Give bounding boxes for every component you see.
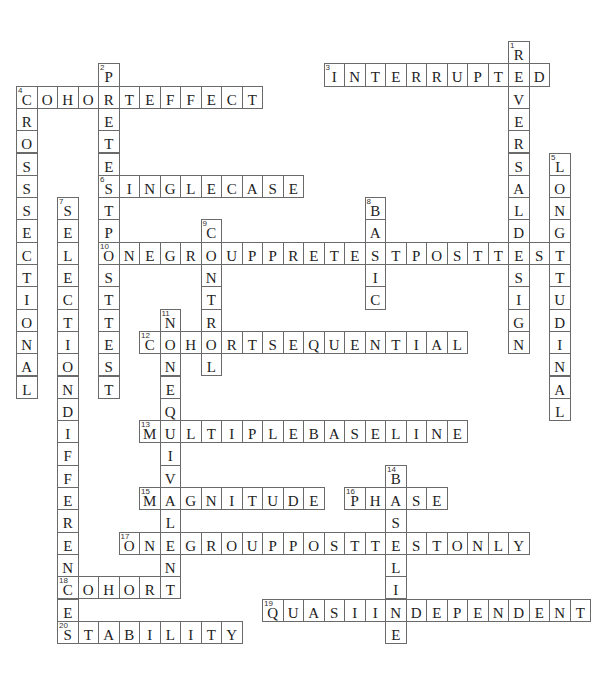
crossword-cell[interactable]: G: [160, 242, 182, 265]
crossword-cell[interactable]: R: [16, 108, 38, 131]
crossword-cell[interactable]: A: [242, 175, 264, 198]
crossword-cell[interactable]: T: [242, 331, 264, 354]
crossword-cell[interactable]: N: [160, 554, 182, 577]
crossword-cell[interactable]: T: [426, 532, 448, 555]
crossword-cell[interactable]: G: [508, 309, 530, 332]
crossword-cell[interactable]: T: [98, 309, 120, 332]
crossword-cell[interactable]: Q: [303, 331, 325, 354]
crossword-cell[interactable]: N: [57, 376, 79, 399]
crossword-cell[interactable]: N: [139, 532, 161, 555]
crossword-cell[interactable]: E: [57, 487, 79, 510]
crossword-cell[interactable]: O: [221, 532, 243, 555]
crossword-cell[interactable]: T: [78, 621, 100, 644]
crossword-cell[interactable]: R: [201, 532, 223, 555]
crossword-cell[interactable]: Y: [221, 621, 243, 644]
crossword-cell[interactable]: E: [98, 108, 120, 131]
crossword-cell[interactable]: N: [549, 353, 571, 376]
crossword-cell[interactable]: S: [508, 153, 530, 176]
crossword-cell[interactable]: C9: [201, 219, 223, 242]
crossword-cell[interactable]: S: [324, 532, 346, 555]
crossword-cell[interactable]: I: [365, 264, 387, 287]
crossword-cell[interactable]: O: [16, 130, 38, 153]
crossword-cell[interactable]: L: [201, 353, 223, 376]
crossword-cell[interactable]: C12: [139, 331, 161, 354]
crossword-cell[interactable]: T: [57, 309, 79, 332]
crossword-cell[interactable]: A: [324, 420, 346, 443]
crossword-cell[interactable]: T: [98, 197, 120, 220]
crossword-cell[interactable]: E: [57, 599, 79, 622]
crossword-cell[interactable]: O: [16, 309, 38, 332]
crossword-cell[interactable]: I: [385, 576, 407, 599]
crossword-cell[interactable]: E: [385, 621, 407, 644]
crossword-cell[interactable]: T: [119, 86, 141, 109]
crossword-cell[interactable]: I: [221, 420, 243, 443]
crossword-cell[interactable]: I: [221, 487, 243, 510]
crossword-cell[interactable]: A: [426, 331, 448, 354]
crossword-cell[interactable]: T: [549, 264, 571, 287]
crossword-cell[interactable]: S: [406, 487, 428, 510]
crossword-cell[interactable]: N: [201, 487, 223, 510]
crossword-cell[interactable]: R: [180, 242, 202, 265]
crossword-cell[interactable]: Q19: [262, 599, 284, 622]
crossword-cell[interactable]: L: [385, 554, 407, 577]
crossword-cell[interactable]: T: [98, 286, 120, 309]
crossword-cell[interactable]: E: [139, 242, 161, 265]
crossword-cell[interactable]: T: [98, 376, 120, 399]
crossword-cell[interactable]: E: [344, 242, 366, 265]
crossword-cell[interactable]: P: [262, 242, 284, 265]
crossword-cell[interactable]: E: [529, 599, 551, 622]
crossword-cell[interactable]: S: [508, 264, 530, 287]
crossword-cell[interactable]: E: [344, 331, 366, 354]
crossword-cell[interactable]: U: [549, 286, 571, 309]
crossword-cell[interactable]: T: [344, 532, 366, 555]
crossword-cell[interactable]: S: [98, 264, 120, 287]
crossword-cell[interactable]: U: [283, 599, 305, 622]
crossword-cell[interactable]: T: [201, 420, 223, 443]
crossword-cell[interactable]: T: [324, 242, 346, 265]
crossword-cell[interactable]: E: [365, 420, 387, 443]
crossword-cell[interactable]: C4: [16, 86, 38, 109]
crossword-cell[interactable]: I3: [324, 63, 346, 86]
crossword-cell[interactable]: C: [57, 286, 79, 309]
crossword-cell[interactable]: I: [160, 442, 182, 465]
crossword-cell[interactable]: S7: [57, 197, 79, 220]
crossword-cell[interactable]: S: [529, 242, 551, 265]
crossword-cell[interactable]: D: [549, 309, 571, 332]
crossword-cell[interactable]: O: [549, 175, 571, 198]
crossword-cell[interactable]: F: [57, 465, 79, 488]
crossword-cell[interactable]: B: [119, 621, 141, 644]
crossword-cell[interactable]: L: [385, 420, 407, 443]
crossword-cell[interactable]: E: [139, 86, 161, 109]
crossword-cell[interactable]: F: [180, 86, 202, 109]
crossword-cell[interactable]: P: [467, 63, 489, 86]
crossword-cell[interactable]: T: [385, 331, 407, 354]
crossword-cell[interactable]: D: [406, 599, 428, 622]
crossword-cell[interactable]: H: [365, 487, 387, 510]
crossword-cell[interactable]: B8: [365, 197, 387, 220]
crossword-cell[interactable]: E: [447, 420, 469, 443]
crossword-cell[interactable]: F: [160, 86, 182, 109]
crossword-cell[interactable]: L: [160, 509, 182, 532]
crossword-cell[interactable]: I: [57, 331, 79, 354]
crossword-cell[interactable]: O17: [119, 532, 141, 555]
crossword-cell[interactable]: N: [57, 554, 79, 577]
crossword-cell[interactable]: O: [303, 532, 325, 555]
crossword-cell[interactable]: I: [406, 420, 428, 443]
crossword-cell[interactable]: N: [508, 331, 530, 354]
crossword-cell[interactable]: L: [57, 242, 79, 265]
crossword-cell[interactable]: S: [16, 175, 38, 198]
crossword-cell[interactable]: D: [57, 398, 79, 421]
crossword-cell[interactable]: L: [180, 420, 202, 443]
crossword-cell[interactable]: G: [160, 175, 182, 198]
crossword-cell[interactable]: C: [16, 242, 38, 265]
crossword-cell[interactable]: O: [78, 576, 100, 599]
crossword-cell[interactable]: E: [57, 532, 79, 555]
crossword-cell[interactable]: E: [283, 175, 305, 198]
crossword-cell[interactable]: T: [365, 63, 387, 86]
crossword-cell[interactable]: E: [201, 86, 223, 109]
crossword-cell[interactable]: E: [385, 63, 407, 86]
crossword-cell[interactable]: I: [16, 286, 38, 309]
crossword-cell[interactable]: N: [119, 242, 141, 265]
crossword-cell[interactable]: U: [324, 331, 346, 354]
crossword-cell[interactable]: S: [16, 197, 38, 220]
